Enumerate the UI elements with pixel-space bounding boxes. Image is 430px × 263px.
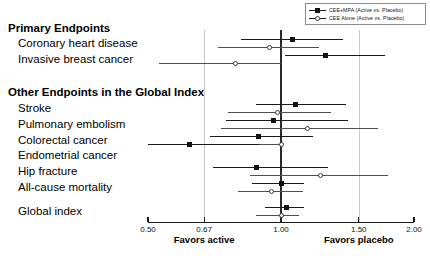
plot-area: 0.50 0.67 1.00 1.50 2.00 Favors active F… — [0, 0, 430, 263]
x-tick-label-1-50: 1.50 — [339, 225, 379, 234]
colorectal-cancer-cee-alone-point-estimate — [279, 142, 284, 147]
pulmonary-embolism-cee-alone-ci-line — [221, 128, 379, 129]
x-tick-label-0-50: 0.50 — [128, 225, 168, 234]
stroke-cee-alone-ci-line — [228, 112, 331, 113]
axis-annotation-favors-placebo: Favors placebo — [299, 234, 419, 245]
colorectal-cancer-cee-mpa-point-estimate — [256, 134, 261, 139]
gridline-1-50 — [359, 30, 360, 222]
invasive-breast-cancer-cee-mpa-ci-line — [285, 55, 385, 56]
x-tick-label-1-00: 1.00 — [261, 225, 301, 234]
pulmonary-embolism-cee-mpa-ci-line — [226, 120, 348, 121]
hip-fracture-cee-mpa-ci-line — [213, 167, 329, 168]
legend-label-cee-mpa: CEE+MPA (Active vs. Placebo) — [329, 7, 403, 13]
legend-item-cee-alone: CEE Alone (Active vs. Placebo) — [309, 14, 422, 22]
all-cause-mortality-cee-mpa-point-estimate — [279, 181, 284, 186]
invasive-breast-cancer-cee-alone-ci-line — [159, 63, 281, 64]
invasive-breast-cancer-cee-mpa-point-estimate — [323, 53, 328, 58]
x-tick-0-50 — [147, 217, 148, 222]
endometrial-cancer-cee-mpa-ci-line — [148, 144, 259, 145]
global-index-cee-mpa-point-estimate — [284, 205, 289, 210]
pulmonary-embolism-cee-mpa-point-estimate — [271, 118, 276, 123]
x-tick-0-67 — [204, 217, 205, 222]
legend-marker-filled-square — [309, 7, 326, 14]
gridline-0-67 — [204, 30, 205, 222]
legend-marker-open-circle — [309, 15, 326, 22]
stroke-cee-alone-point-estimate — [275, 110, 280, 115]
hip-fracture-cee-alone-point-estimate — [318, 173, 323, 178]
coronary-heart-disease-cee-alone-point-estimate — [267, 45, 272, 50]
legend-item-cee-mpa: CEE+MPA (Active vs. Placebo) — [309, 6, 422, 14]
pulmonary-embolism-cee-alone-point-estimate — [305, 126, 310, 131]
invasive-breast-cancer-cee-alone-point-estimate — [233, 61, 238, 66]
colorectal-cancer-cee-mpa-ci-line — [210, 136, 313, 137]
x-axis — [148, 222, 414, 223]
legend-label-cee-alone: CEE Alone (Active vs. Placebo) — [329, 15, 404, 21]
x-tick-2-00 — [413, 217, 414, 222]
forest-plot-figure: Primary Endpoints Coronary heart disease… — [0, 0, 430, 263]
endometrial-cancer-cee-mpa-point-estimate — [187, 142, 192, 147]
reference-line-1-00 — [280, 30, 281, 222]
x-tick-1-50 — [358, 217, 359, 222]
legend: CEE+MPA (Active vs. Placebo) CEE Alone (… — [305, 3, 426, 25]
stroke-cee-mpa-point-estimate — [293, 102, 298, 107]
stroke-cee-mpa-ci-line — [256, 104, 345, 105]
x-tick-label-0-67: 0.67 — [184, 225, 224, 234]
global-index-cee-alone-point-estimate — [279, 213, 284, 218]
coronary-heart-disease-cee-mpa-point-estimate — [290, 37, 295, 42]
x-tick-label-2-00: 2.00 — [394, 225, 430, 234]
all-cause-mortality-cee-alone-point-estimate — [269, 189, 274, 194]
axis-annotation-favors-active: Favors active — [144, 234, 264, 245]
hip-fracture-cee-mpa-point-estimate — [254, 165, 259, 170]
global-index-cee-alone-ci-line — [256, 215, 299, 216]
